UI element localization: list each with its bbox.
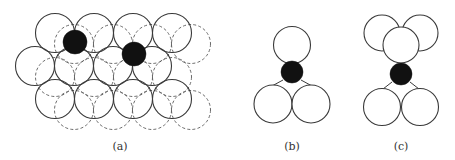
bond-line [383, 82, 392, 89]
panel-label-b: (b) [284, 140, 300, 153]
host-sphere [274, 27, 311, 64]
bond-line [410, 82, 419, 89]
hcp-packing-diagram [0, 0, 455, 160]
interstitial-atom [122, 42, 146, 66]
panel-c-octahedral-site [364, 15, 439, 126]
upper-layer-sphere [16, 47, 55, 86]
host-sphere [402, 89, 439, 126]
host-sphere [292, 85, 330, 123]
host-sphere [383, 27, 419, 63]
host-sphere [254, 85, 292, 123]
panel-label-c: (c) [394, 140, 409, 153]
interstitial-atom [390, 63, 412, 85]
panel-label-a: (a) [112, 140, 127, 153]
panel-a-close-packed-layers [16, 14, 211, 130]
lower-layer-sphere [153, 58, 192, 97]
host-sphere [364, 89, 401, 126]
interstitial-atom [63, 30, 87, 54]
panel-b-tetrahedral-site [254, 27, 330, 124]
interstitial-atom [281, 61, 303, 83]
